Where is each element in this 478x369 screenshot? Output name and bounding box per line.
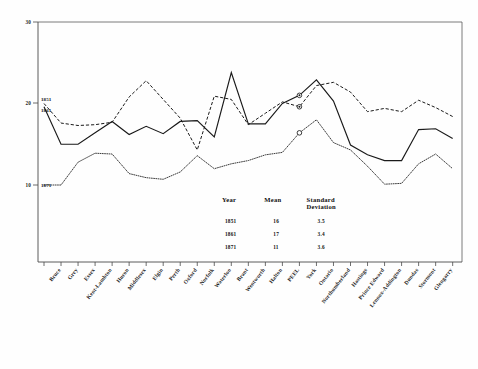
x-axis-label: Waterloo [213,267,232,289]
stats-header-standard-deviation: Standard Deviation [307,196,370,215]
series-line-1851 [44,81,453,150]
statistics-table: Year Mean Standard Deviation 1851163.518… [222,196,370,253]
series-label-1871: 1871 [41,183,52,188]
x-axis-label: Grey [66,267,79,281]
series-label-1851: 1851 [41,97,52,102]
x-axis-label: Perth [168,266,182,281]
stats-cell-mean: 16 [264,215,306,228]
stats-cell-sd: 3.5 [307,215,370,228]
series-line-1871 [44,120,453,185]
data-point-marker-1871 [297,131,302,136]
series-line-1861 [44,73,453,161]
x-axis-label: Bruce [48,267,62,283]
y-axis-ticks: 30 20 10 [25,19,38,188]
x-axis-label: Lennox-Addington [368,266,403,308]
data-point-markers [297,93,302,135]
stats-table-row: 1871113.6 [222,241,370,254]
x-axis-label: Ontario [317,267,334,287]
stats-header-sd-line2: Deviation [307,203,370,210]
x-axis-label: Elgin [151,266,164,281]
x-axis-label: Huron [115,266,130,283]
data-point-marker-dot [298,94,300,96]
x-axis-label: Brant [235,267,249,282]
data-point-marker-dot [298,106,300,108]
stats-header-sd-line1: Standard [307,196,335,203]
y-tick-label-20: 20 [25,100,31,106]
x-axis-label: Dundas [403,266,420,285]
stats-cell-mean: 17 [264,228,306,241]
x-axis-ticks [44,262,453,266]
stats-table-body: 1851163.51861173.41871113.6 [222,215,370,253]
x-axis-label: PEEL [286,267,300,283]
stats-table-row: 1851163.5 [222,215,370,228]
x-axis-label: York [305,266,318,280]
x-axis-label: Essex [82,267,95,282]
chart-container: 30 20 10 1851 1861 1871 BruceGreyEssexKe… [0,0,478,369]
stats-cell-year: 1861 [222,228,264,241]
stats-cell-sd: 3.4 [307,228,370,241]
series-label-1861: 1861 [41,108,52,113]
stats-table-row: 1861173.4 [222,228,370,241]
line-chart-plot: 30 20 10 1851 1861 1871 BruceGreyEssexKe… [0,0,478,369]
x-axis-label: Halton [268,266,284,284]
stats-cell-year: 1871 [222,241,264,254]
stats-header-year: Year [222,196,264,215]
stats-cell-mean: 11 [264,241,306,254]
x-axis-label: Oxford [182,266,198,285]
stats-table-header-row: Year Mean Standard Deviation [222,196,370,215]
stats-cell-year: 1851 [222,215,264,228]
x-axis-labels: BruceGreyEssexKent-LambtonHuronMiddlesex… [48,266,454,308]
y-tick-label-30: 30 [25,19,31,25]
x-axis-label: Norfolk [198,266,215,286]
y-tick-label-10: 10 [25,182,31,188]
stats-header-mean: Mean [264,196,306,215]
stats-cell-sd: 3.6 [307,241,370,254]
